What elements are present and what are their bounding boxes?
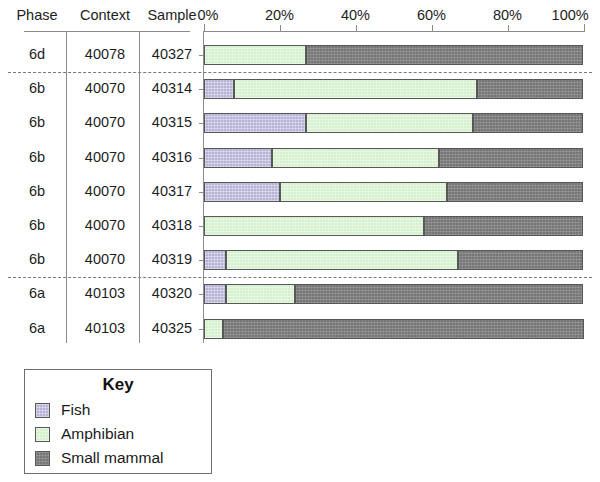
bar-segment-amphibian (306, 113, 473, 133)
x-axis-tick (432, 25, 433, 32)
row-label-sample: 40327 (143, 46, 201, 62)
row-label-context: 40070 (70, 251, 140, 267)
stacked-bar (204, 113, 584, 133)
bar-segment-fish (204, 182, 280, 202)
stacked-bar (204, 319, 584, 339)
bar-segment-small-mammal (458, 250, 583, 270)
bar-segment-small-mammal (439, 148, 583, 168)
legend-label: Amphibian (61, 423, 134, 445)
row-label-context: 40070 (70, 114, 140, 130)
bar-segment-small-mammal (424, 216, 584, 236)
header-rule (24, 31, 190, 32)
x-axis-tick (584, 24, 585, 32)
column-header-sample: Sample (143, 7, 201, 23)
row-label-context: 40070 (70, 217, 140, 233)
row-label-sample: 40325 (143, 320, 201, 336)
legend-swatch-fish (35, 403, 50, 418)
row-label-sample: 40314 (143, 80, 201, 96)
row-label-context: 40103 (70, 320, 140, 336)
row-label-phase: 6b (8, 80, 66, 96)
legend-swatch-small-mammal (35, 451, 50, 466)
row-label-phase: 6d (8, 46, 66, 62)
row-label-context: 40070 (70, 183, 140, 199)
row-label-phase: 6b (8, 149, 66, 165)
bar-segment-amphibian (204, 319, 223, 339)
column-divider-1 (66, 31, 67, 343)
bar-segment-small-mammal (473, 113, 583, 133)
row-label-phase: 6b (8, 114, 66, 130)
x-axis-tick-label: 40% (341, 7, 370, 23)
x-axis-tick-label: 80% (493, 7, 522, 23)
row-label-context: 40078 (70, 46, 140, 62)
stacked-bar (204, 250, 584, 270)
bar-segment-fish (204, 250, 227, 270)
row-label-phase: 6a (8, 320, 66, 336)
bar-segment-amphibian (204, 45, 307, 65)
row-label-phase: 6b (8, 183, 66, 199)
phase-divider (8, 277, 592, 278)
x-axis-tick (508, 25, 509, 32)
row-label-context: 40070 (70, 149, 140, 165)
bar-segment-small-mammal (306, 45, 583, 65)
stacked-bar-chart: Phase Context Sample 0%20%40%60%80%100% … (0, 0, 600, 482)
row-label-context: 40103 (70, 285, 140, 301)
x-axis-tick-label: 20% (265, 7, 294, 23)
x-axis-tick-label: 60% (417, 7, 446, 23)
bar-segment-fish (204, 79, 234, 99)
x-axis-tick (356, 25, 357, 32)
x-axis-tick-label: 0% (198, 7, 219, 23)
x-axis-tick (204, 24, 205, 32)
row-label-sample: 40319 (143, 251, 201, 267)
bar-segment-amphibian (234, 79, 477, 99)
bar-segment-amphibian (280, 182, 447, 202)
row-label-phase: 6b (8, 217, 66, 233)
column-header-context: Context (70, 7, 140, 23)
legend-label: Small mammal (61, 447, 163, 469)
row-label-context: 40070 (70, 80, 140, 96)
stacked-bar (204, 45, 584, 65)
bar-segment-fish (204, 113, 307, 133)
stacked-bar (204, 284, 584, 304)
bar-segment-amphibian (272, 148, 439, 168)
bar-segment-fish (204, 284, 227, 304)
row-label-sample: 40320 (143, 285, 201, 301)
stacked-bar (204, 148, 584, 168)
stacked-bar (204, 79, 584, 99)
legend-box: Key FishAmphibianSmall mammal (24, 369, 212, 474)
bar-segment-amphibian (226, 284, 294, 304)
bar-segment-amphibian (204, 216, 424, 236)
bar-segment-small-mammal (295, 284, 584, 304)
legend-label: Fish (61, 399, 90, 421)
stacked-bar (204, 182, 584, 202)
row-label-sample: 40318 (143, 217, 201, 233)
x-axis-tick-label: 100% (552, 7, 589, 23)
row-label-sample: 40315 (143, 114, 201, 130)
phase-divider (8, 72, 592, 73)
row-label-sample: 40317 (143, 183, 201, 199)
x-axis-tick (280, 25, 281, 32)
bar-segment-small-mammal (447, 182, 584, 202)
row-label-phase: 6b (8, 251, 66, 267)
row-label-phase: 6a (8, 285, 66, 301)
bar-segment-small-mammal (477, 79, 583, 99)
legend-swatch-amphibian (35, 427, 50, 442)
x-axis-line (203, 31, 584, 32)
row-label-sample: 40316 (143, 149, 201, 165)
legend-title: Key (25, 375, 211, 395)
bar-segment-fish (204, 148, 272, 168)
stacked-bar (204, 216, 584, 236)
column-header-phase: Phase (8, 7, 66, 23)
bar-segment-small-mammal (223, 319, 584, 339)
bar-segment-amphibian (226, 250, 458, 270)
